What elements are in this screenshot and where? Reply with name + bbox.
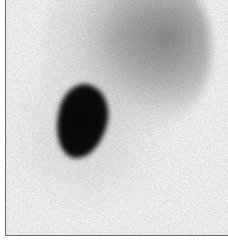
image-frame [5, 0, 228, 236]
grain-texture [6, 0, 228, 235]
scintigraphy-image [6, 0, 228, 235]
